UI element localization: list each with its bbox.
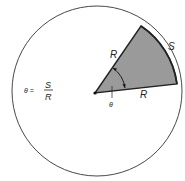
label-arc: S: [168, 41, 175, 52]
formula-numerator: S: [45, 80, 51, 90]
label-radius-upper: R: [110, 49, 117, 60]
formula-lhs: θ =: [24, 87, 34, 94]
shaded-sector: [95, 26, 177, 93]
label-radius-lower: R: [140, 89, 147, 100]
formula-denominator: R: [45, 92, 52, 102]
center-point: [93, 91, 96, 94]
label-angle: θ: [109, 101, 113, 108]
radian-diagram: R R S θ θ = S R: [0, 0, 185, 181]
